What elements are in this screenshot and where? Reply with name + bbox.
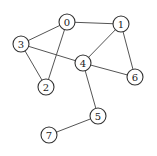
- node-label: 1: [118, 19, 124, 30]
- node-2: 2: [38, 79, 54, 95]
- node-label: 4: [80, 58, 86, 69]
- node-6: 6: [127, 69, 143, 85]
- graph-diagram: 01234567: [0, 0, 157, 156]
- node-label: 0: [64, 17, 70, 28]
- node-label: 7: [46, 130, 52, 141]
- node-label: 6: [132, 72, 138, 83]
- node-label: 5: [95, 111, 101, 122]
- node-3: 3: [13, 36, 29, 52]
- node-label: 3: [18, 39, 24, 50]
- node-5: 5: [90, 108, 106, 124]
- node-label: 2: [43, 82, 49, 93]
- edges-layer: [21, 22, 135, 135]
- node-1: 1: [113, 16, 129, 32]
- node-4: 4: [75, 55, 91, 71]
- node-0: 0: [59, 14, 75, 30]
- node-7: 7: [41, 127, 57, 143]
